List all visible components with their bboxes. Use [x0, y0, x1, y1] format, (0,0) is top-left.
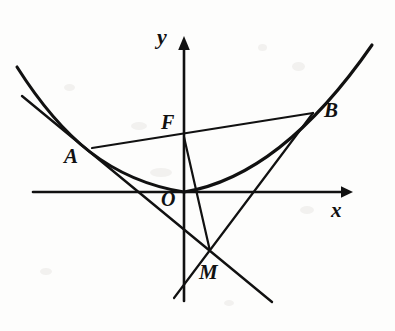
- y-axis-label: y: [157, 26, 167, 48]
- x-axis-arrowhead: [341, 186, 353, 198]
- x-axis-label: x: [331, 200, 342, 221]
- point-label-f: F: [161, 112, 174, 132]
- geometry-canvas: [0, 0, 395, 331]
- y-axis: [178, 36, 190, 301]
- parabola-figure: A B F O M y x: [0, 0, 395, 331]
- point-label-m: M: [199, 262, 218, 283]
- focal-chord-ab: [92, 113, 313, 148]
- point-label-o: O: [161, 189, 175, 209]
- tangent-line-at-a: [22, 96, 272, 302]
- point-label-b: B: [324, 100, 338, 121]
- x-axis: [33, 186, 353, 198]
- tangent-line-at-b: [174, 113, 313, 298]
- point-label-a: A: [64, 146, 78, 167]
- parabola-curve: [17, 45, 372, 192]
- y-axis-arrowhead: [178, 36, 190, 50]
